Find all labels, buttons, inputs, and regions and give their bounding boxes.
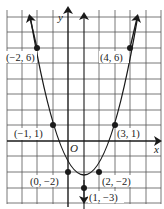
label-neg1-1: (−1, 1) <box>14 128 43 140</box>
y-axis-label: y <box>57 11 63 23</box>
point-2-neg2 <box>96 169 102 175</box>
label-0-neg2: (0, −2) <box>30 176 59 188</box>
origin-label: O <box>70 142 78 154</box>
label-neg2-6: (−2, 6) <box>6 52 35 64</box>
x-axis-label: x <box>153 143 159 155</box>
point-neg1-1 <box>50 122 56 128</box>
label-3-1: (3, 1) <box>117 128 140 140</box>
label-1-neg3: (1, −3) <box>89 192 118 204</box>
point-0-neg2 <box>65 169 71 175</box>
label-2-neg2: (2, −2) <box>102 176 131 188</box>
point-4-6 <box>127 45 133 51</box>
point-neg2-6 <box>34 45 40 51</box>
label-4-6: (4, 6) <box>100 52 123 64</box>
parabola-graph: (−2, 6) (4, 6) (−1, 1) (3, 1) (0, −2) (2… <box>0 0 164 209</box>
point-1-neg3 <box>81 185 87 191</box>
